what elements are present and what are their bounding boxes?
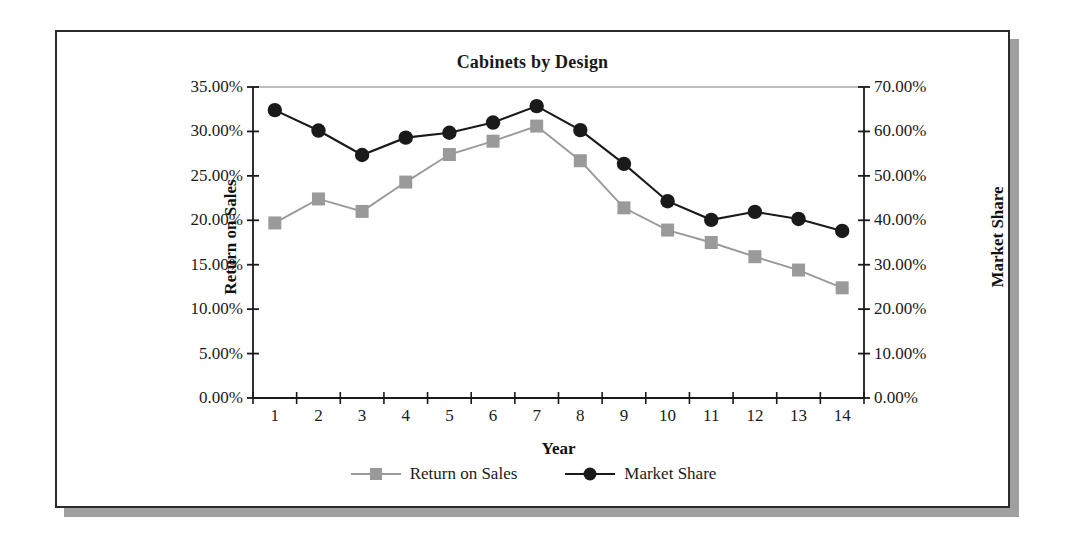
x-axis-tick-label: 14 — [822, 407, 862, 424]
data-point-return-on-sales-2 — [312, 192, 325, 205]
data-point-market-share-12 — [748, 205, 762, 219]
y-axis-right-tick-label: 10.00% — [874, 345, 926, 362]
x-axis-tick-label: 10 — [648, 407, 688, 424]
data-point-market-share-7 — [529, 99, 543, 113]
data-series-group — [268, 99, 850, 294]
data-point-market-share-1 — [268, 103, 282, 117]
y-axis-right-tick-label: 30.00% — [874, 256, 926, 273]
data-point-return-on-sales-14 — [836, 281, 849, 294]
y-axis-left-tick-label: 30.00% — [191, 122, 243, 139]
axis-ticks — [247, 87, 870, 404]
data-point-return-on-sales-3 — [356, 205, 369, 218]
chart-figure-frame: Cabinets by Design 0.00%5.00%10.00%15.00… — [55, 30, 1010, 508]
y-axis-right-tick-label: 40.00% — [874, 211, 926, 228]
y-axis-right-title: Market Share — [988, 147, 1008, 327]
x-axis-tick-label: 3 — [342, 407, 382, 424]
legend-entry-market-share: Market Share — [563, 464, 716, 484]
data-point-market-share-3 — [355, 148, 369, 162]
data-point-market-share-6 — [486, 115, 500, 129]
chart-title: Cabinets by Design — [57, 52, 1008, 73]
data-point-market-share-5 — [442, 126, 456, 140]
data-point-return-on-sales-13 — [792, 264, 805, 277]
x-axis-tick-label: 5 — [429, 407, 469, 424]
data-point-return-on-sales-11 — [705, 236, 718, 249]
y-axis-right-tick-label: 50.00% — [874, 167, 926, 184]
x-axis-tick-label: 1 — [255, 407, 295, 424]
data-point-return-on-sales-10 — [661, 224, 674, 237]
legend-entry-return-on-sales: Return on Sales — [349, 464, 518, 484]
data-point-market-share-13 — [791, 212, 805, 226]
x-axis-title: Year — [253, 439, 864, 459]
y-axis-right-tick-label: 20.00% — [874, 300, 926, 317]
data-point-market-share-10 — [660, 194, 674, 208]
y-axis-right-tick-label: 0.00% — [874, 389, 918, 406]
plot-box: 0.00%5.00%10.00%15.00%20.00%25.00%30.00%… — [253, 87, 864, 398]
chart-canvas — [253, 87, 864, 398]
data-point-market-share-9 — [617, 157, 631, 171]
y-axis-left-title: Return on Sales — [221, 147, 241, 327]
x-axis-tick-label: 4 — [386, 407, 426, 424]
legend-label: Return on Sales — [410, 464, 518, 484]
data-point-return-on-sales-4 — [399, 176, 412, 189]
data-point-return-on-sales-6 — [487, 135, 500, 148]
data-point-market-share-11 — [704, 213, 718, 227]
x-axis-tick-label: 9 — [604, 407, 644, 424]
x-axis-tick-label: 7 — [517, 407, 557, 424]
y-axis-right-tick-label: 60.00% — [874, 122, 926, 139]
legend-label: Market Share — [624, 464, 716, 484]
chart-legend: Return on SalesMarket Share — [57, 464, 1008, 484]
y-axis-left-tick-label: 5.00% — [199, 345, 243, 362]
data-point-return-on-sales-9 — [617, 201, 630, 214]
x-axis-tick-label: 12 — [735, 407, 775, 424]
data-point-return-on-sales-5 — [443, 148, 456, 161]
legend-square-marker-icon — [349, 465, 403, 483]
data-point-return-on-sales-8 — [574, 154, 587, 167]
chart-plot-area: Cabinets by Design 0.00%5.00%10.00%15.00… — [57, 32, 1008, 506]
legend-circle-marker-icon — [563, 465, 617, 483]
y-axis-right-tick-label: 70.00% — [874, 78, 926, 95]
x-axis-tick-label: 6 — [473, 407, 513, 424]
x-axis-tick-label: 8 — [560, 407, 600, 424]
y-axis-left-tick-label: 0.00% — [199, 389, 243, 406]
data-point-return-on-sales-1 — [268, 216, 281, 229]
y-axis-left-tick-label: 35.00% — [191, 78, 243, 95]
data-point-market-share-4 — [399, 130, 413, 144]
data-point-return-on-sales-7 — [530, 120, 543, 133]
x-axis-tick-label: 2 — [298, 407, 338, 424]
x-axis-tick-label: 11 — [691, 407, 731, 424]
data-point-market-share-8 — [573, 123, 587, 137]
axis-lines — [253, 87, 864, 398]
data-point-market-share-2 — [311, 123, 325, 137]
x-axis-tick-label: 13 — [779, 407, 819, 424]
data-point-market-share-14 — [835, 224, 849, 238]
data-point-return-on-sales-12 — [748, 250, 761, 263]
